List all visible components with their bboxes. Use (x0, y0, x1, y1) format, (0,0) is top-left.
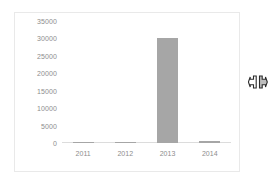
y-axis-tick-label: 25000 (37, 52, 57, 59)
x-axis-tick-label: 2013 (147, 147, 189, 161)
bar-slot (62, 21, 104, 143)
y-axis-tick-label: 30000 (37, 35, 57, 42)
y-axis-tick-label: 35000 (37, 18, 57, 25)
y-axis-tick-label: 15000 (37, 87, 57, 94)
bar-series (62, 21, 231, 143)
bar-slot (189, 21, 231, 143)
y-axis: 05000100001500020000250003000035000 (15, 21, 60, 143)
y-axis-tick-label: 0 (53, 140, 57, 147)
chart-frame: 05000100001500020000250003000035000 2011… (14, 12, 240, 172)
x-axis-tick-label: 2012 (104, 147, 146, 161)
x-axis: 2011201220132014 (62, 147, 231, 161)
bar-slot (147, 21, 189, 143)
horizontal-resize-cursor[interactable] (248, 71, 268, 93)
bar-2013[interactable] (157, 38, 178, 143)
bar-2014[interactable] (199, 141, 220, 143)
plot-area (62, 21, 231, 143)
bar-2011[interactable] (73, 142, 94, 143)
bar-2012[interactable] (115, 142, 136, 143)
y-axis-tick-label: 5000 (41, 122, 57, 129)
x-axis-tick-label: 2011 (62, 147, 104, 161)
bar-slot (104, 21, 146, 143)
x-axis-tick-label: 2014 (189, 147, 231, 161)
y-axis-tick-label: 20000 (37, 70, 57, 77)
y-axis-tick-label: 10000 (37, 105, 57, 112)
